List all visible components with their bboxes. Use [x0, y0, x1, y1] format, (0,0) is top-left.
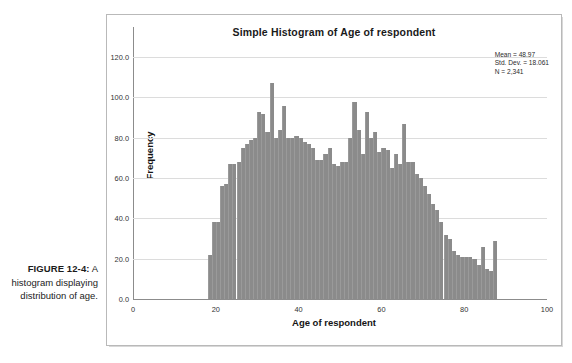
x-tick-label: 0	[131, 305, 135, 314]
figure-caption-label: FIGURE 12-4:	[28, 263, 90, 274]
histogram-bar	[493, 241, 497, 299]
x-tick-label: 60	[377, 305, 385, 314]
y-tick-label: 100.0	[111, 93, 130, 102]
x-tick-label: 80	[460, 305, 468, 314]
y-tick-label: 0.0	[119, 295, 129, 304]
y-tick-label: 80.0	[115, 133, 129, 142]
histogram-bars	[133, 37, 547, 299]
y-tick-label: 120.0	[111, 53, 130, 62]
plot-area: 0.020.040.060.080.0100.0120.002040608010…	[133, 37, 547, 299]
gridline-y-0: 0.0	[133, 299, 547, 300]
x-tick-label: 20	[212, 305, 220, 314]
plot-wrapper: Frequency Age of respondent 0.020.040.06…	[107, 15, 561, 345]
figure-caption: FIGURE 12-4: A histogram displaying dist…	[0, 262, 98, 303]
x-tick-label: 100	[541, 305, 553, 314]
figure-page: FIGURE 12-4: A histogram displaying dist…	[0, 0, 572, 363]
chart-frame: Simple Histogram of Age of respondent Me…	[106, 14, 562, 346]
y-tick-label: 40.0	[115, 214, 129, 223]
y-tick-label: 60.0	[115, 174, 129, 183]
x-axis-title: Age of respondent	[107, 317, 561, 328]
x-tick-label: 40	[294, 305, 302, 314]
y-tick-label: 20.0	[115, 254, 129, 263]
